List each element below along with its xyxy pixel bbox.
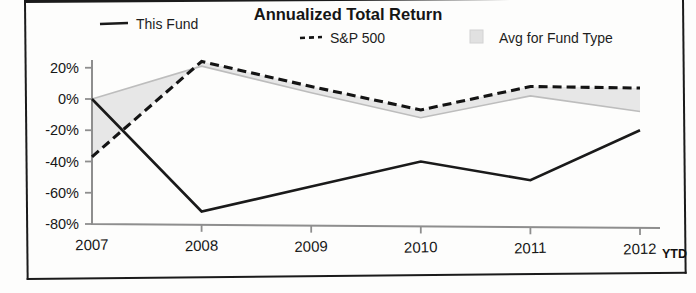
y-axis-tick-label: 0% — [58, 91, 79, 107]
chart-axes — [92, 60, 660, 228]
gray-square-swatch-icon — [470, 30, 483, 43]
x-axis-tick-label: 2011 — [514, 239, 547, 257]
x-axis-ytd-label: YTD — [662, 247, 687, 261]
y-axis-tick-label: -40% — [45, 154, 79, 170]
annualized-total-return-chart: Annualized Total Return This Fund S&P 50… — [0, 0, 696, 293]
x-axis-tick-label: 2010 — [404, 238, 438, 256]
legend-label-sp-500: S&P 500 — [330, 30, 385, 46]
y-axis-tick-label: 20% — [50, 60, 79, 76]
y-axis-tick-label: -60% — [45, 185, 79, 201]
x-axis-tick-label: 2012 — [623, 240, 657, 258]
x-axis-tick-label: 2009 — [294, 237, 328, 255]
dashed-line-marker-icon — [300, 37, 322, 38]
chart-page: Annualized Total Return This Fund S&P 50… — [0, 0, 696, 293]
y-axis-tick-label: -80% — [45, 216, 79, 232]
series-this-fund — [92, 99, 640, 212]
legend-item-avg-for-fund-type: Avg for Fund Type — [470, 30, 613, 46]
legend-label-this-fund: This Fund — [136, 16, 198, 32]
legend-item-this-fund: This Fund — [100, 16, 198, 32]
x-axis-tick-label: 2008 — [185, 236, 219, 254]
y-axis-tick-label: -20% — [45, 122, 79, 138]
legend-label-avg-for-fund-type: Avg for Fund Type — [499, 30, 613, 46]
avg-for-fund-type-band — [92, 62, 640, 157]
chart-title: Annualized Total Return — [254, 5, 443, 23]
legend-item-sp-500: S&P 500 — [300, 30, 385, 46]
plot-area: 20%0%-20%-40%-60%-80%2007200820092010201… — [45, 60, 687, 261]
x-axis-tick-label: 2007 — [75, 236, 109, 254]
solid-line-marker-icon — [100, 23, 128, 24]
chart-svg: Annualized Total Return This Fund S&P 50… — [0, 0, 696, 293]
